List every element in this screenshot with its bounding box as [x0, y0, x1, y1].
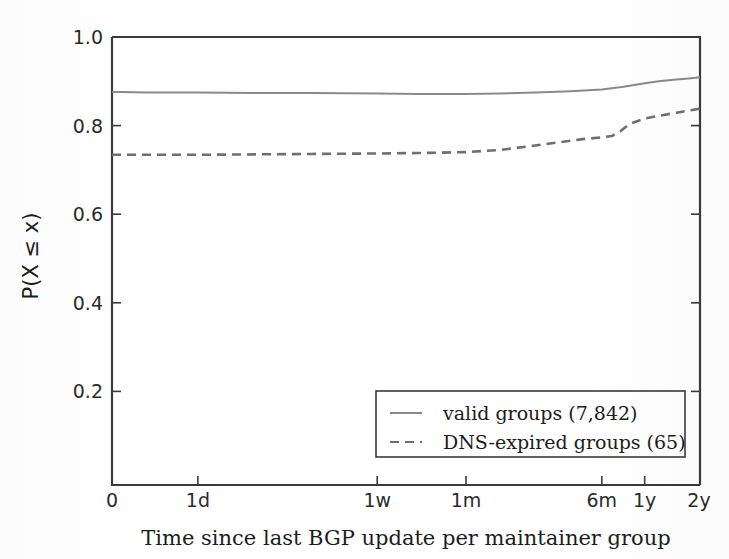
y-tick-label-0.8: 0.8 — [73, 115, 103, 137]
x-tick-label-2y: 2y — [687, 489, 710, 511]
cdf-chart-figure: 1.0 0.8 0.6 0.4 0.2 0 1d 1w 1m 6m 1y 2y … — [0, 0, 729, 559]
x-tick-label-6m: 6m — [586, 489, 617, 511]
legend-label-dns-expired-groups: DNS-expired groups (65) — [443, 431, 686, 453]
y-tick-label-1.0: 1.0 — [73, 26, 103, 48]
x-tick-label-1y: 1y — [633, 489, 656, 511]
legend: valid groups (7,842) DNS-expired groups … — [376, 391, 686, 457]
y-axis-title: P(X ≤ x) — [19, 213, 43, 300]
y-tick-label-0.6: 0.6 — [73, 203, 103, 225]
y-tick-label-0.4: 0.4 — [73, 292, 103, 314]
legend-label-valid-groups: valid groups (7,842) — [442, 402, 638, 424]
y-tick-label-0.2: 0.2 — [73, 380, 103, 402]
x-tick-label-1d: 1d — [186, 489, 210, 511]
x-tick-label-1m: 1m — [451, 489, 482, 511]
x-tick-label-0: 0 — [106, 489, 118, 511]
x-axis-title: Time since last BGP update per maintaine… — [141, 526, 670, 550]
x-tick-label-1w: 1w — [363, 489, 391, 511]
